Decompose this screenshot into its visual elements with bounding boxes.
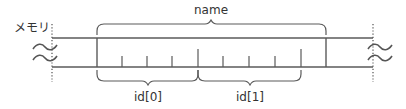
struct-label: name: [194, 3, 228, 17]
left-omission-wave-icon: [33, 44, 57, 61]
field-brace-id0: [97, 70, 198, 85]
memory-layout-diagram: メモリ name id[0] id[1]: [0, 0, 406, 109]
right-omission-wave-icon: [368, 44, 392, 61]
field-brace-id1: [198, 70, 301, 85]
memory-label: メモリ: [14, 21, 50, 35]
struct-brace: [97, 20, 326, 35]
field-label-id1: id[1]: [236, 90, 264, 104]
field-label-id0: id[0]: [134, 90, 162, 104]
